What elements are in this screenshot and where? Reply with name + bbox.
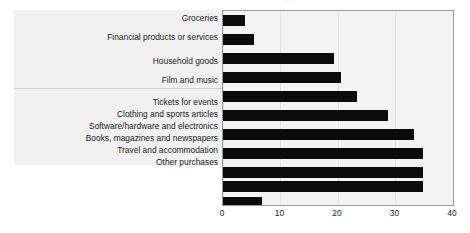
bar	[223, 129, 414, 140]
bar	[223, 197, 262, 206]
bar	[223, 181, 423, 192]
bar	[223, 53, 334, 64]
bar	[223, 72, 341, 83]
x-tick-label: 0	[220, 208, 225, 218]
category-label: Travel and accommodation	[14, 146, 218, 155]
x-axis-tick-labels: 010203040	[222, 208, 452, 222]
category-axis-labels: GroceriesFinancial products or servicesH…	[14, 10, 218, 165]
bar	[223, 110, 388, 121]
chart-screenshot: '' GroceriesFinancial products or servic…	[0, 0, 470, 233]
bar	[223, 34, 254, 45]
plot-area	[222, 10, 454, 206]
x-tick-label: 20	[332, 208, 341, 218]
category-label: Software/hardware and electronics	[14, 122, 218, 131]
category-label: Books, magazines and newspapers	[14, 134, 218, 143]
category-label: Household goods	[14, 57, 218, 66]
category-label: Financial products or services	[14, 33, 218, 42]
bar	[223, 167, 423, 178]
bar	[223, 15, 245, 26]
x-tick-label: 30	[390, 208, 399, 218]
cropped-title-remnant: ''	[286, 0, 322, 4]
category-label: Other purchases	[14, 158, 218, 167]
x-tick-label: 10	[275, 208, 284, 218]
category-label: Tickets for events	[14, 98, 218, 107]
category-label: Clothing and sports articles	[14, 110, 218, 119]
category-label: Film and music	[14, 76, 218, 85]
x-tick-label: 40	[447, 208, 456, 218]
category-label: Groceries	[14, 14, 218, 23]
bar	[223, 91, 357, 102]
bar	[223, 148, 423, 159]
